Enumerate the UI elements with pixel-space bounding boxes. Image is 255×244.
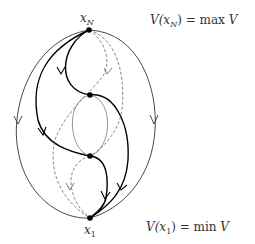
dashed-trajectory — [71, 156, 90, 218]
annotation-max: V(xN) = max V — [150, 13, 237, 29]
label-var: x — [84, 223, 91, 237]
arrow-icon — [101, 191, 110, 199]
arrow-icon — [66, 183, 74, 190]
outer-right-trajectory — [89, 30, 155, 218]
text: V( — [146, 220, 159, 234]
outer-left-trajectory — [16, 30, 90, 218]
arrow-icon — [104, 68, 112, 74]
flow-diagram — [0, 0, 255, 244]
text: V( — [150, 13, 163, 27]
node-lower-critical — [87, 153, 93, 159]
arrow-icon — [150, 115, 158, 124]
node-upper-critical — [87, 92, 93, 98]
trajectory-top-upper — [65, 30, 90, 95]
text: V — [220, 220, 229, 234]
arrow-icon — [57, 67, 65, 74]
node-x1 — [87, 215, 93, 221]
text: ) = min — [171, 220, 220, 234]
label-x1: x1 — [84, 223, 96, 239]
text: V — [229, 13, 238, 27]
arrow-icon — [14, 116, 22, 124]
node-xN — [86, 27, 92, 33]
annotation-min: V(x1) = min V — [146, 220, 229, 236]
text: ) = max — [177, 13, 228, 27]
dashed-trajectory — [53, 30, 107, 218]
trajectory-upper-bottom — [90, 95, 128, 218]
label-sub: 1 — [91, 230, 96, 239]
label-xN: xN — [80, 11, 94, 27]
label-var: x — [80, 11, 87, 25]
trajectory-lower-bottom — [90, 156, 107, 218]
label-sub: N — [87, 18, 94, 27]
